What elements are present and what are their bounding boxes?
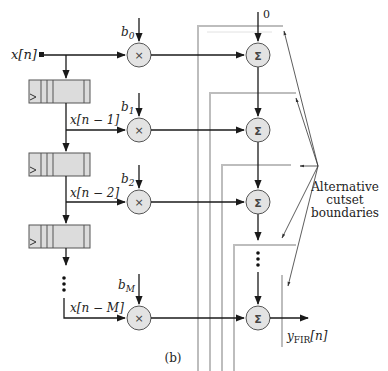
delay-register-1 [29, 80, 90, 103]
svg-text:×: × [134, 49, 143, 62]
coef-b1: b1 [121, 93, 139, 116]
adder-1: Σ [246, 118, 270, 142]
svg-text:Σ: Σ [254, 50, 262, 63]
adder-2: Σ [246, 190, 270, 214]
ellipsis-adder [256, 251, 260, 267]
adder-0: Σ [246, 43, 270, 67]
multiplier-1: × [127, 118, 151, 142]
signal-label-1: x[n − 1] [70, 113, 119, 127]
svg-text:b0: b0 [121, 25, 135, 41]
coef-bM: bM [118, 274, 139, 304]
svg-text:Alternative: Alternative [310, 180, 379, 194]
signal-label-M: x[n − M] [70, 301, 124, 315]
svg-text:Σ: Σ [254, 313, 262, 326]
annotation-label: Alternative cutset boundaries [310, 180, 379, 220]
signal-label-2: x[n − 2] [70, 186, 119, 200]
svg-text:b2: b2 [121, 172, 135, 188]
annotation-arrows [282, 31, 318, 286]
coef-b2: b2 [121, 165, 139, 188]
svg-text:×: × [134, 312, 143, 325]
svg-text:bM: bM [118, 278, 136, 294]
multiplier-M: × [127, 306, 151, 330]
figure-caption: (b) [164, 351, 181, 365]
svg-text:Σ: Σ [254, 125, 262, 138]
svg-text:Σ: Σ [254, 197, 262, 210]
svg-text:b1: b1 [121, 100, 134, 116]
adder-M: Σ [246, 306, 270, 330]
output-label: yFIR[n] [286, 329, 328, 345]
adder-initial-input: 0 [263, 8, 270, 21]
input-node [39, 52, 44, 57]
fir-filter-diagram: x[n] x[n − 1] x[n − 2] [0, 0, 388, 371]
multiplier-2: × [127, 190, 151, 214]
svg-text:cutset: cutset [326, 193, 364, 207]
svg-text:×: × [134, 124, 143, 137]
coef-b0: b0 [121, 18, 139, 41]
ellipsis-delay [62, 276, 66, 292]
delay-register-2 [29, 153, 90, 176]
multiplier-0: × [127, 43, 151, 67]
svg-text:boundaries: boundaries [311, 206, 379, 220]
svg-text:×: × [134, 196, 143, 209]
delay-register-3 [29, 225, 90, 248]
input-label: x[n] [11, 47, 38, 62]
